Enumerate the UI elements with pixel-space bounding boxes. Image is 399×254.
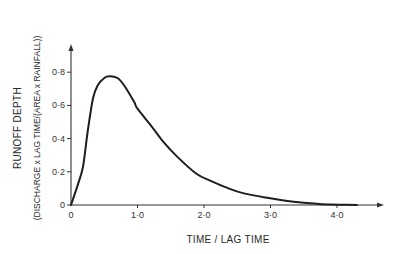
x-axis-ticks: 01·02·03·04·0 (68, 205, 343, 220)
runoff-hydrograph-chart: 01·02·03·04·0 00·20·40·60·8 TIME / LAG T… (0, 0, 399, 254)
y-tick-label: 0·6 (52, 100, 65, 110)
y-axis-ticks: 00·20·40·60·8 (52, 67, 71, 210)
y-tick-label: 0·4 (52, 134, 65, 144)
x-tick-label: 1·0 (131, 210, 144, 220)
hydrograph-curve (71, 76, 357, 205)
y-tick-label: 0 (60, 200, 65, 210)
x-axis-label: TIME / LAG TIME (186, 234, 269, 245)
x-tick-label: 3·0 (264, 210, 277, 220)
y-axis-sublabel: (DISCHARGE x LAG TIME/(AREA x RAINFALL)) (32, 36, 42, 221)
x-tick-label: 2·0 (197, 210, 210, 220)
y-axis-label: RUNOFF DEPTH (12, 87, 23, 169)
axes (69, 44, 385, 208)
y-tick-label: 0·8 (52, 67, 65, 77)
x-tick-label: 4·0 (330, 210, 343, 220)
x-tick-label: 0 (68, 210, 73, 220)
y-tick-label: 0·2 (52, 167, 65, 177)
y-axis-arrow-icon (69, 44, 74, 51)
x-axis-arrow-icon (377, 203, 384, 208)
